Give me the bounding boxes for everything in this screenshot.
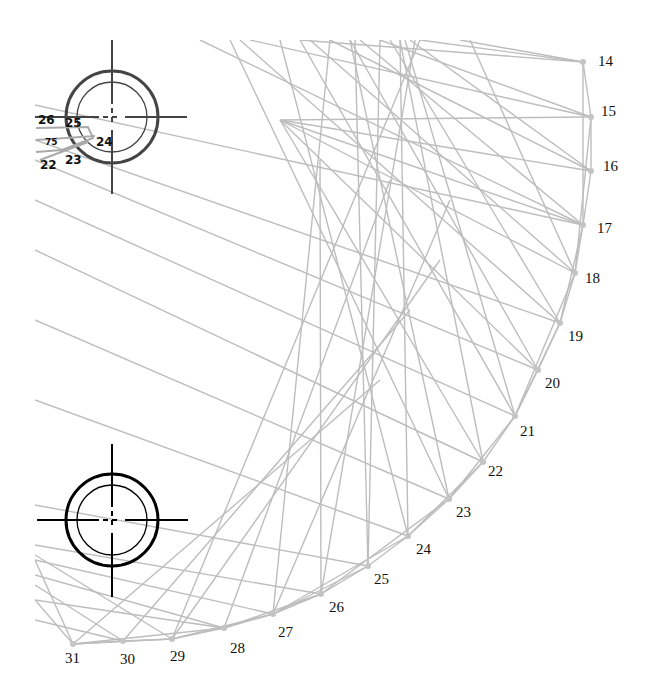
node-label-15: 15 [601,103,616,119]
string-24-far-1 [400,40,408,536]
node-label-27: 27 [278,624,294,640]
string-22-24 [408,462,483,536]
node-label-26: 26 [329,599,345,615]
node-30[interactable] [120,638,126,644]
node-label-23: 23 [456,504,471,520]
string-15-far-0 [380,40,591,117]
string-28-31 [73,628,224,644]
node-16[interactable] [588,168,594,174]
string-26-far-2 [320,160,321,594]
node-label-14: 14 [598,53,614,69]
string-18-far-2 [470,40,575,273]
mini-label-26: 26 [38,113,55,127]
mini-label-24: 24 [96,135,113,149]
upper-target-crosshair[interactable] [35,40,187,194]
string-22-far-0 [280,120,483,462]
node-label-31: 31 [65,650,80,666]
string-17-far-3 [360,40,583,225]
node-label-21: 21 [520,423,535,439]
node-29[interactable] [169,636,175,642]
node-label-24: 24 [416,541,432,557]
node-label-17: 17 [597,220,613,236]
node-31[interactable] [70,641,76,647]
mini-label-25: 25 [65,116,82,130]
string-29-far-1 [35,555,172,639]
node-15[interactable] [588,114,594,120]
node-26[interactable] [318,591,324,597]
string-21-far-1 [300,40,515,416]
node-27[interactable] [270,611,276,617]
lower-target-crosshair[interactable] [37,444,188,597]
node-label-25: 25 [374,571,389,587]
node-label-28: 28 [230,640,245,656]
node-label-20: 20 [545,375,560,391]
node-label-18: 18 [585,270,600,286]
mini-label-75: 75 [45,137,58,147]
node-23[interactable] [446,496,452,502]
node-17[interactable] [580,222,586,228]
string-21-far-2 [35,200,515,416]
node-22[interactable] [480,459,486,465]
node-label-30: 30 [120,651,135,667]
mini-label-23: 23 [65,153,82,167]
string-lines [35,40,591,644]
string-art-diagram: 141516171819202122232425262728293031 26 … [0,0,648,695]
node-25[interactable] [365,563,371,569]
node-label-22: 22 [488,463,503,479]
node-21[interactable] [512,413,518,419]
string-14-15 [583,62,591,117]
string-30-far-2 [35,620,123,641]
node-19[interactable] [557,320,563,326]
node-label-29: 29 [170,648,185,664]
mini-label-22: 22 [40,158,57,172]
node-24[interactable] [405,533,411,539]
string-20-far-2 [35,160,538,370]
string-17-19 [560,225,583,323]
string-29-far-0 [172,40,420,639]
node-label-16: 16 [603,158,619,174]
node-18[interactable] [572,270,578,276]
string-19-far-2 [35,140,560,323]
string-24-25 [368,536,408,566]
node-28[interactable] [221,625,227,631]
string-17-far-0 [200,40,583,225]
node-14[interactable] [580,59,586,65]
node-label-19: 19 [568,328,583,344]
string-15-far-1 [250,40,591,117]
node-20[interactable] [535,367,541,373]
string-31-far-2 [35,560,73,644]
